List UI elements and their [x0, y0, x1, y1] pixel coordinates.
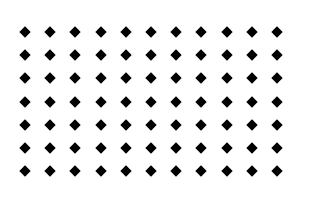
diamond-icon	[196, 50, 207, 61]
diamond-icon	[95, 96, 106, 107]
diamond-icon	[271, 50, 282, 61]
diamond-icon	[95, 166, 106, 177]
diamond-icon	[70, 26, 81, 37]
diamond-icon	[171, 96, 182, 107]
diamond-icon	[70, 142, 81, 153]
diamond-icon	[120, 26, 131, 37]
diamond-icon	[145, 119, 156, 130]
diamond-icon	[196, 142, 207, 153]
diamond-icon	[45, 142, 56, 153]
diamond-icon	[120, 142, 131, 153]
diamond-icon	[246, 142, 257, 153]
diamond-icon	[271, 26, 282, 37]
diamond-icon	[221, 26, 232, 37]
diamond-icon	[196, 166, 207, 177]
diamond-icon	[196, 26, 207, 37]
diamond-icon	[145, 73, 156, 84]
diamond-icon	[45, 166, 56, 177]
diamond-icon	[171, 119, 182, 130]
diamond-icon	[45, 26, 56, 37]
diamond-icon	[271, 96, 282, 107]
diamond-icon	[45, 50, 56, 61]
diamond-icon	[70, 166, 81, 177]
diamond-icon	[246, 119, 257, 130]
diamond-icon	[145, 50, 156, 61]
diamond-icon	[271, 119, 282, 130]
diamond-icon	[19, 96, 30, 107]
diamond-grid	[0, 0, 310, 209]
diamond-icon	[171, 50, 182, 61]
diamond-icon	[196, 119, 207, 130]
diamond-icon	[145, 26, 156, 37]
diamond-icon	[70, 96, 81, 107]
diamond-icon	[120, 73, 131, 84]
diamond-icon	[271, 73, 282, 84]
diamond-icon	[145, 166, 156, 177]
diamond-icon	[246, 73, 257, 84]
diamond-icon	[221, 96, 232, 107]
diamond-icon	[196, 96, 207, 107]
diamond-icon	[95, 119, 106, 130]
diamond-icon	[45, 96, 56, 107]
diamond-icon	[271, 142, 282, 153]
diamond-icon	[120, 96, 131, 107]
diamond-icon	[19, 166, 30, 177]
diamond-icon	[196, 73, 207, 84]
diamond-icon	[120, 50, 131, 61]
diamond-icon	[221, 73, 232, 84]
diamond-icon	[45, 119, 56, 130]
diamond-icon	[246, 166, 257, 177]
diamond-icon	[45, 73, 56, 84]
diamond-icon	[19, 50, 30, 61]
diamond-icon	[246, 50, 257, 61]
diamond-icon	[221, 142, 232, 153]
diamond-icon	[95, 142, 106, 153]
diamond-icon	[171, 73, 182, 84]
diamond-icon	[171, 166, 182, 177]
diamond-icon	[19, 73, 30, 84]
diamond-icon	[70, 50, 81, 61]
diamond-icon	[95, 50, 106, 61]
diamond-icon	[221, 166, 232, 177]
diamond-icon	[19, 142, 30, 153]
diamond-icon	[145, 96, 156, 107]
diamond-icon	[70, 119, 81, 130]
diamond-icon	[120, 166, 131, 177]
diamond-icon	[19, 119, 30, 130]
diamond-icon	[95, 73, 106, 84]
diamond-icon	[221, 50, 232, 61]
diamond-icon	[120, 119, 131, 130]
diamond-icon	[246, 96, 257, 107]
diamond-icon	[145, 142, 156, 153]
diamond-icon	[19, 26, 30, 37]
diamond-icon	[70, 73, 81, 84]
diamond-icon	[95, 26, 106, 37]
diamond-icon	[271, 166, 282, 177]
diamond-icon	[171, 142, 182, 153]
diamond-icon	[221, 119, 232, 130]
diamond-icon	[246, 26, 257, 37]
diamond-icon	[171, 26, 182, 37]
